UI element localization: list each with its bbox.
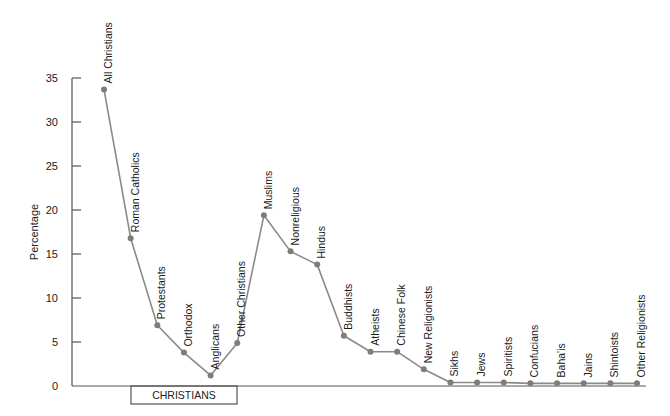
data-point-marker — [208, 372, 214, 378]
point-label: Other Religionists — [635, 295, 647, 378]
data-point-marker — [128, 235, 134, 241]
data-point-marker — [394, 349, 400, 355]
point-label: Protestants — [155, 266, 167, 319]
y-tick-label: 0 — [52, 380, 58, 392]
data-point-marker — [261, 212, 267, 218]
y-tick-label: 20 — [46, 204, 58, 216]
data-point-marker — [288, 248, 294, 254]
data-point-marker — [314, 262, 320, 268]
christians-group-box: CHRISTIANS — [131, 386, 237, 404]
point-label: Chinese Folk — [395, 284, 407, 346]
point-label: Buddhists — [342, 284, 354, 330]
data-point-marker — [447, 379, 453, 385]
data-point-marker — [234, 340, 240, 346]
point-label: Orthodox — [182, 303, 194, 347]
data-point-marker — [368, 349, 374, 355]
y-tick-label: 25 — [46, 160, 58, 172]
point-label: Hindus — [315, 226, 327, 259]
point-label: Confucians — [528, 325, 540, 378]
point-label: Atheists — [369, 308, 381, 345]
point-label: Sikhs — [448, 351, 460, 377]
data-point-marker — [501, 379, 507, 385]
point-labels: All ChristiansRoman CatholicsProtestants… — [102, 22, 647, 377]
religion-percentage-chart: 05101520253035Percentage All ChristiansR… — [0, 0, 670, 416]
data-point-marker — [607, 380, 613, 386]
axes: 05101520253035Percentage — [28, 72, 646, 392]
data-point-marker — [527, 380, 533, 386]
point-label: Nonreligious — [289, 187, 301, 245]
data-point-marker — [474, 379, 480, 385]
y-tick-label: 10 — [46, 292, 58, 304]
data-point-marker — [181, 350, 187, 356]
data-point-marker — [341, 333, 347, 339]
point-label: Anglicans — [209, 324, 221, 370]
point-label: Spiritists — [502, 337, 514, 377]
y-axis-title: Percentage — [28, 204, 40, 260]
group-label-christians: CHRISTIANS — [152, 389, 216, 401]
point-label: Roman Catholics — [129, 152, 141, 232]
point-label: Muslims — [262, 171, 274, 210]
chart-canvas: 05101520253035Percentage All ChristiansR… — [0, 0, 670, 416]
point-label: Shintoists — [608, 332, 620, 378]
point-label: Baha'is — [555, 343, 567, 377]
y-tick-label: 30 — [46, 116, 58, 128]
data-point-marker — [634, 380, 640, 386]
point-label: Jains — [582, 353, 594, 378]
point-label: All Christians — [102, 22, 114, 83]
data-point-marker — [581, 380, 587, 386]
y-tick-label: 5 — [52, 336, 58, 348]
data-point-marker — [101, 86, 107, 92]
y-tick-label: 35 — [46, 72, 58, 84]
y-tick-label: 15 — [46, 248, 58, 260]
data-point-marker — [421, 366, 427, 372]
data-point-marker — [554, 380, 560, 386]
point-label: Jews — [475, 353, 487, 377]
point-label: New Religionists — [422, 286, 434, 364]
point-label: Other Christians — [235, 261, 247, 337]
data-point-marker — [154, 322, 160, 328]
